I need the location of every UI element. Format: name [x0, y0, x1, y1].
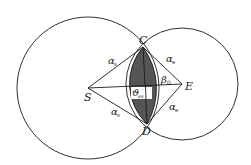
- label-beta-0: β 0: [160, 74, 171, 86]
- label-point-c: C: [139, 34, 148, 47]
- svg-text:e: e: [172, 59, 175, 65]
- chord-cd-over-box: [146, 87, 147, 99]
- label-alpha-s-bottom: α s: [111, 106, 120, 118]
- diagram-canvas: C D S E α s α s α e α e β 0 ϑ es: [0, 0, 251, 165]
- label-alpha-e-top: α e: [166, 53, 175, 65]
- label-point-e: E: [184, 80, 193, 93]
- svg-text:0: 0: [167, 79, 171, 86]
- label-point-s: S: [84, 91, 92, 104]
- label-alpha-e-bottom: α e: [169, 101, 178, 113]
- svg-text:es: es: [138, 93, 144, 99]
- svg-text:s: s: [114, 61, 117, 67]
- label-point-d: D: [141, 125, 151, 138]
- svg-text:e: e: [175, 107, 178, 113]
- svg-text:β: β: [160, 74, 167, 85]
- label-alpha-s-top: α s: [108, 55, 117, 67]
- svg-text:s: s: [117, 112, 120, 118]
